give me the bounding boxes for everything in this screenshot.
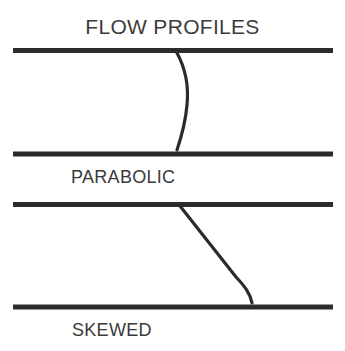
- parabolic-pipe-group: [13, 51, 333, 155]
- skewed-flow-profile-curve: [180, 206, 252, 303]
- skewed-pipe-group: [13, 205, 333, 308]
- figure-title: FLOW PROFILES: [0, 16, 345, 37]
- parabolic-diagram-label: PARABOLIC: [71, 168, 175, 186]
- parabolic-flow-profile-curve: [177, 52, 188, 150]
- flow-profiles-figure: FLOW PROFILES PARABOLIC SKEWED: [0, 0, 345, 351]
- skewed-diagram-label: SKEWED: [72, 321, 152, 339]
